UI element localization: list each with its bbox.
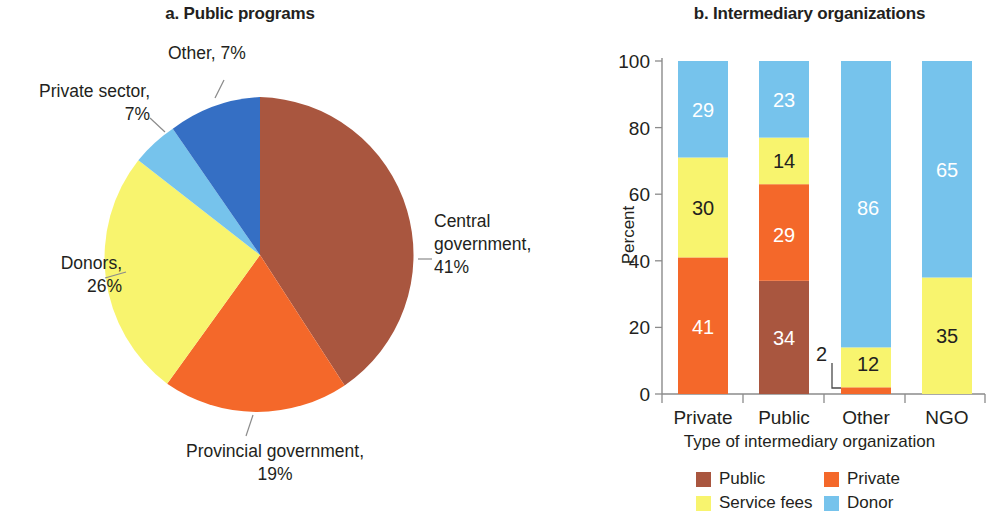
legend-swatch-public-icon — [696, 472, 711, 487]
legend-swatch-private-icon — [824, 472, 839, 487]
legend-label-service-fees: Service fees — [719, 493, 813, 513]
pie-label-private-sector: Private sector, 7% — [2, 80, 150, 126]
legend-item-public: Public — [696, 469, 824, 489]
bar-other-segment-private — [841, 387, 891, 394]
legend-label-donor: Donor — [847, 493, 893, 513]
legend-item-service-fees: Service fees — [696, 493, 824, 513]
x-label-private: Private — [673, 407, 732, 428]
pie-label-central-government: Central government, 41% — [434, 210, 594, 278]
bar-ngo-value-donor: 65 — [936, 159, 958, 181]
leader-line-private-sector — [150, 118, 165, 132]
bar-private-value-service-fees: 30 — [692, 197, 714, 219]
bar-public-value-public: 34 — [773, 327, 795, 349]
bar-other: 2 12 86 — [816, 61, 891, 394]
bar-public-value-private: 29 — [773, 224, 795, 246]
y-tick-label-20: 20 — [629, 317, 650, 338]
bar-private-value-private: 41 — [692, 316, 714, 338]
x-axis-ticks — [662, 394, 985, 403]
x-axis-category-labels: Private Public Other NGO — [673, 407, 968, 428]
figure-two-panel-chart: a. Public programs Other, 7% Private sec… — [0, 0, 999, 525]
bar-private-value-donor: 29 — [692, 99, 714, 121]
legend-label-public: Public — [719, 469, 765, 489]
bar-public-value-service-fees: 14 — [773, 150, 795, 172]
legend-swatch-service-fees-icon — [696, 496, 711, 511]
y-axis-ticks — [655, 61, 662, 394]
x-label-public: Public — [758, 407, 810, 428]
pie-label-provincial-government: Provincial government, 19% — [100, 440, 450, 486]
leader-line-bar-other-private — [832, 363, 841, 388]
y-tick-label-0: 0 — [639, 384, 650, 405]
legend-item-private: Private — [824, 469, 996, 489]
pie-label-other: Other, 7% — [168, 42, 358, 65]
bar-private: 41 30 29 — [678, 61, 728, 394]
bar-other-value-donor: 86 — [857, 197, 879, 219]
x-label-other: Other — [842, 407, 890, 428]
bar-chart-graphic: 0 20 40 60 80 100 41 30 — [600, 0, 999, 430]
leader-line-other — [215, 80, 224, 98]
bar-ngo-value-service-fees: 35 — [936, 325, 958, 347]
y-tick-label-80: 80 — [629, 118, 650, 139]
bar-chart-legend: Public Private Service fees Donor — [696, 469, 996, 513]
panel-b-intermediary-organizations: b. Intermediary organizations 0 20 40 60 — [600, 0, 999, 525]
legend-swatch-donor-icon — [824, 496, 839, 511]
bar-ngo: 35 65 — [922, 61, 972, 394]
x-label-ngo: NGO — [925, 407, 968, 428]
panel-a-public-programs: a. Public programs Other, 7% Private sec… — [0, 0, 600, 525]
pie-label-donors: Donors, 26% — [0, 252, 122, 298]
y-axis-title: Percent — [619, 175, 639, 295]
bar-public: 34 29 14 23 — [759, 61, 809, 394]
legend-label-private: Private — [847, 469, 900, 489]
y-tick-label-100: 100 — [618, 51, 650, 72]
legend-item-donor: Donor — [824, 493, 996, 513]
bar-other-value-private: 2 — [816, 343, 827, 365]
bar-other-value-service-fees: 12 — [857, 353, 879, 375]
leader-line-provincial-government — [246, 415, 253, 436]
x-axis-title: Type of intermediary organization — [620, 432, 999, 452]
bar-public-value-donor: 23 — [773, 89, 795, 111]
